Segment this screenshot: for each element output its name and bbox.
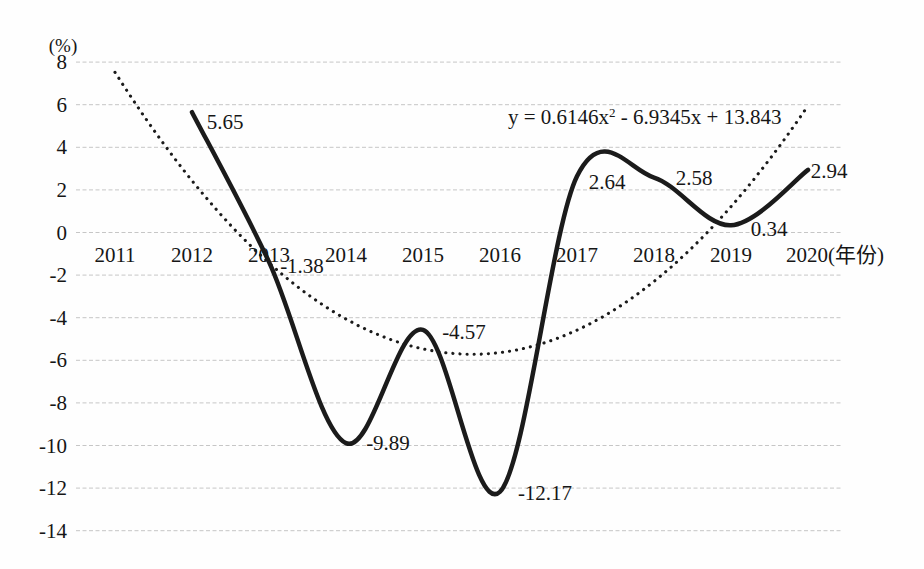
y-axis-unit-label: (%) [49, 35, 77, 57]
x-tick-label: 2016 [479, 243, 521, 267]
line-chart-figure: 86420-2-4-6-8-10-12-14(%)201120122013201… [0, 0, 924, 569]
series-line [192, 112, 808, 494]
x-tick-label: 2015 [402, 243, 444, 267]
x-tick-label: 2011 [94, 243, 135, 267]
y-tick-label: -8 [50, 391, 68, 415]
y-tick-label: -6 [50, 348, 68, 372]
x-tick-label: 2020(年份) [786, 243, 884, 267]
data-label: -1.38 [280, 254, 324, 278]
data-label: -12.17 [518, 481, 572, 505]
x-tick-label: 2014 [325, 243, 368, 267]
y-tick-label: -10 [39, 434, 67, 458]
x-tick-label: 2017 [556, 243, 598, 267]
y-tick-label: 0 [57, 221, 68, 245]
data-label: 2.58 [676, 166, 713, 190]
y-tick-label: 6 [57, 93, 68, 117]
line-chart: 86420-2-4-6-8-10-12-14(%)201120122013201… [0, 0, 924, 569]
data-label: 0.34 [751, 217, 788, 241]
gridlines [76, 62, 843, 531]
data-label: 5.65 [207, 110, 244, 134]
data-label: -9.89 [366, 431, 410, 455]
data-label: 2.64 [589, 170, 626, 194]
y-tick-label: 4 [57, 135, 68, 159]
x-axis-tick-labels: 2011201220132014201520162017201820192020… [94, 243, 884, 267]
y-tick-label: 2 [57, 178, 68, 202]
y-tick-label: -4 [50, 306, 68, 330]
x-tick-label: 2012 [171, 243, 213, 267]
x-tick-label: 2018 [633, 243, 675, 267]
y-axis-tick-labels: 86420-2-4-6-8-10-12-14 [39, 50, 68, 543]
data-label: -4.57 [442, 320, 486, 344]
y-tick-label: -14 [39, 519, 67, 543]
y-tick-label: -2 [50, 263, 68, 287]
x-tick-label: 2019 [710, 243, 752, 267]
y-tick-label: -12 [39, 476, 67, 500]
data-label: 2.94 [811, 159, 848, 183]
trendline-equation: y = 0.6146x2 - 6.9345x + 13.843 [508, 105, 781, 129]
